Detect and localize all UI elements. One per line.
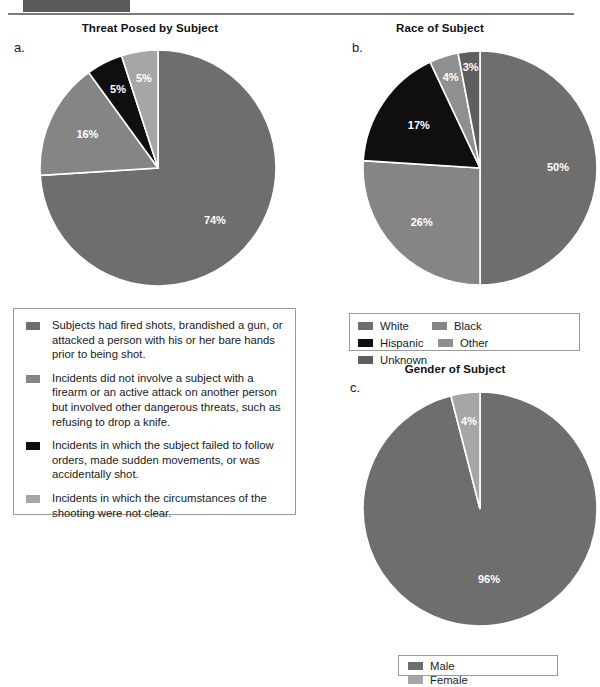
chart-letter-c: c. bbox=[350, 380, 360, 395]
legend-item: Hispanic bbox=[358, 336, 438, 350]
legend-item: Female bbox=[408, 673, 484, 687]
legend-item-label: White bbox=[380, 320, 409, 332]
legend-item-label: Black bbox=[454, 320, 482, 332]
legend-item: Incidents in which the circumstances of … bbox=[26, 491, 285, 520]
legend-swatch bbox=[358, 322, 373, 330]
chart-panel-gender: Gender of Subject c. 96%4% bbox=[330, 363, 580, 648]
legend-gender-grid: Male Female bbox=[408, 659, 557, 687]
legend-swatch bbox=[432, 322, 447, 330]
pie-slice-label: 17% bbox=[408, 119, 430, 131]
legend-item-label: Hispanic bbox=[380, 337, 423, 349]
page-header-bar bbox=[23, 0, 130, 12]
legend-item: Subjects had fired shots, brandished a g… bbox=[26, 318, 285, 362]
chart-title-threat: Threat Posed by Subject bbox=[0, 22, 300, 34]
pie-slice-label: 26% bbox=[411, 216, 433, 228]
legend-swatch bbox=[26, 375, 40, 383]
pie-slice-label: 4% bbox=[443, 71, 459, 83]
legend-item: White bbox=[358, 319, 432, 333]
pie-slice-label: 5% bbox=[136, 72, 152, 84]
legend-swatch bbox=[358, 339, 373, 347]
pie-slice-label: 96% bbox=[478, 573, 500, 585]
chart-title-race: Race of Subject bbox=[300, 22, 580, 34]
legend-item-label: Incidents did not involve a subject with… bbox=[52, 371, 285, 429]
legend-item-label: Male bbox=[430, 660, 455, 672]
chart-letter-a: a. bbox=[14, 40, 25, 55]
legend-item: Incidents in which the subject failed to… bbox=[26, 438, 285, 482]
legend-item-label: Subjects had fired shots, brandished a g… bbox=[52, 318, 285, 362]
pie-slice-label: 74% bbox=[204, 214, 226, 226]
chart-panel-race: Race of Subject b. 50%26%17%4%3% bbox=[300, 22, 580, 307]
legend-gender: Male Female bbox=[398, 655, 558, 676]
pie-race-svg[interactable]: 50%26%17%4%3% bbox=[360, 48, 600, 288]
pie-slice-label: 3% bbox=[463, 61, 479, 73]
pie-slice-label: 16% bbox=[76, 128, 98, 140]
pie-chart-race[interactable]: 50%26%17%4%3% bbox=[360, 48, 600, 288]
legend-item-label: Other bbox=[460, 337, 488, 349]
legend-swatch bbox=[408, 676, 423, 684]
legend-swatch bbox=[26, 442, 40, 450]
legend-threat: Subjects had fired shots, brandished a g… bbox=[13, 308, 296, 515]
legend-race: White Black Hispanic Other Unknown bbox=[349, 313, 580, 351]
legend-item-label: Incidents in which the subject failed to… bbox=[52, 438, 285, 482]
legend-swatch bbox=[408, 662, 423, 670]
pie-gender-svg[interactable]: 96%4% bbox=[360, 389, 600, 629]
legend-item: Other bbox=[438, 336, 512, 350]
legend-item: Male bbox=[408, 659, 484, 673]
legend-item: Black bbox=[432, 319, 508, 333]
pie-chart-threat[interactable]: 74%16%5%5% bbox=[38, 48, 278, 288]
pie-slice[interactable] bbox=[480, 51, 597, 285]
pie-slice-label: 50% bbox=[547, 161, 569, 173]
pie-slice-label: 4% bbox=[461, 415, 477, 427]
legend-swatch bbox=[438, 339, 453, 347]
pie-chart-gender[interactable]: 96%4% bbox=[360, 389, 600, 629]
legend-swatch bbox=[26, 495, 40, 503]
legend-item-label: Incidents in which the circumstances of … bbox=[52, 491, 285, 520]
chart-title-gender: Gender of Subject bbox=[330, 363, 580, 375]
legend-item-label: Female bbox=[430, 674, 468, 686]
chart-panel-threat: Threat Posed by Subject a. 74%16%5%5% bbox=[0, 22, 300, 302]
legend-swatch bbox=[26, 322, 40, 330]
legend-item: Incidents did not involve a subject with… bbox=[26, 371, 285, 429]
pie-threat-svg[interactable]: 74%16%5%5% bbox=[38, 48, 278, 288]
pie-slice-label: 5% bbox=[110, 83, 126, 95]
page-header-rule bbox=[8, 13, 574, 15]
